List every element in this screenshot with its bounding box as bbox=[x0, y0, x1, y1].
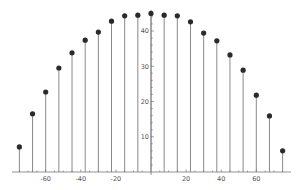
x-tick-label: 20 bbox=[182, 175, 190, 183]
data-point-marker bbox=[148, 11, 153, 16]
data-point-marker bbox=[56, 65, 61, 70]
data-point-marker bbox=[69, 50, 74, 55]
data-point-marker bbox=[188, 19, 193, 24]
data-point-marker bbox=[96, 29, 101, 34]
stem-chart: -60-40-20204060 10203040 bbox=[0, 0, 298, 190]
x-tick-label: -60 bbox=[40, 175, 51, 183]
data-point-marker bbox=[30, 111, 35, 116]
y-tick-label: 40 bbox=[141, 27, 149, 35]
data-point-marker bbox=[227, 52, 232, 57]
data-point-marker bbox=[201, 31, 206, 36]
data-point-marker bbox=[162, 13, 167, 18]
data-point-marker bbox=[43, 89, 48, 94]
y-ticks-group: 10203040 bbox=[141, 17, 154, 165]
y-tick-label: 30 bbox=[141, 63, 149, 71]
data-point-marker bbox=[280, 148, 285, 153]
data-point-marker bbox=[135, 13, 140, 18]
x-tick-label: 60 bbox=[252, 175, 260, 183]
data-point-marker bbox=[214, 38, 219, 43]
data-point-marker bbox=[17, 144, 22, 149]
data-point-marker bbox=[122, 13, 127, 18]
y-tick-label: 10 bbox=[141, 133, 149, 141]
x-tick-label: 40 bbox=[217, 175, 225, 183]
x-tick-label: -40 bbox=[75, 175, 86, 183]
data-point-marker bbox=[109, 19, 114, 24]
data-point-marker bbox=[254, 93, 259, 98]
data-point-marker bbox=[175, 13, 180, 18]
data-point-marker bbox=[267, 113, 272, 118]
x-tick-label: -20 bbox=[111, 175, 122, 183]
data-point-marker bbox=[83, 38, 88, 43]
data-point-marker bbox=[241, 68, 246, 73]
y-tick-label: 20 bbox=[141, 98, 149, 106]
